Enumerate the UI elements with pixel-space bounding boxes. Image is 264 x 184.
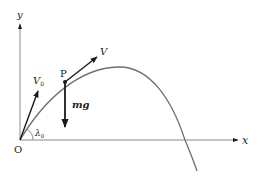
velocity-arrow <box>65 57 97 82</box>
point-p-dot <box>63 80 67 84</box>
origin-label: O <box>14 144 22 155</box>
velocity-label: V <box>100 46 109 57</box>
y-axis-label: y <box>16 9 23 20</box>
trajectory-curve <box>20 67 197 171</box>
x-axis-label: x <box>242 134 249 147</box>
gravity-label: mg <box>72 99 90 110</box>
angle-arc <box>27 129 33 140</box>
initial-velocity-label: V0 <box>33 75 44 87</box>
angle-label: λ0 <box>34 128 45 139</box>
point-p-label: P <box>60 68 67 79</box>
projectile-diagram: y x O P V0 V mg λ0 <box>0 0 264 184</box>
